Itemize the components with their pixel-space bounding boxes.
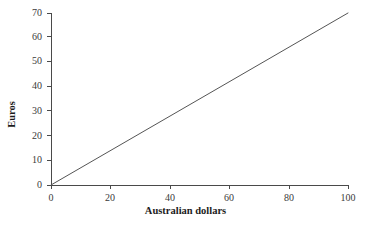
y-tick-label-50: 50	[25, 56, 42, 66]
x-tick-label-60: 60	[224, 193, 234, 203]
y-tick-label-10: 10	[25, 155, 42, 165]
x-tick-label-80: 80	[284, 193, 294, 203]
data-series-line	[51, 13, 348, 185]
y-axis-ticks	[47, 13, 51, 185]
chart-container: 70 60 50 40 30 20 10 0 0 20 40 60 80 100…	[0, 0, 371, 229]
y-axis-title: Euros	[7, 0, 21, 229]
y-tick-label-60: 60	[25, 32, 42, 42]
x-axis-title: Australian dollars	[0, 206, 371, 217]
x-axis-ticks	[51, 185, 348, 189]
y-tick-label-0: 0	[25, 180, 42, 190]
y-tick-label-30: 30	[25, 106, 42, 116]
x-tick-label-40: 40	[165, 193, 175, 203]
y-tick-label-40: 40	[25, 81, 42, 91]
y-tick-label-70: 70	[25, 8, 42, 18]
y-tick-label-20: 20	[25, 131, 42, 141]
x-tick-label-0: 0	[49, 193, 54, 203]
chart-plot-area	[0, 0, 371, 229]
x-tick-label-100: 100	[341, 193, 356, 203]
x-tick-label-20: 20	[105, 193, 115, 203]
